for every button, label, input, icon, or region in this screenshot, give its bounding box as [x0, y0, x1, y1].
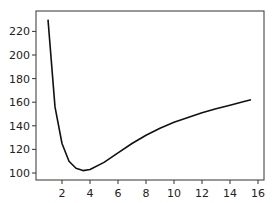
x-tick-label: 8 — [143, 187, 150, 200]
y-tick-label: 180 — [9, 73, 30, 86]
x-tick-label: 6 — [115, 187, 122, 200]
x-axis: 246810121416 — [59, 180, 266, 200]
line-chart: 100120140160180200220 246810121416 — [0, 0, 279, 203]
x-tick-label: 10 — [167, 187, 181, 200]
x-tick-label: 12 — [195, 187, 209, 200]
x-tick-label: 2 — [59, 187, 66, 200]
y-tick-label: 160 — [9, 96, 30, 109]
y-tick-label: 100 — [9, 167, 30, 180]
y-tick-label: 140 — [9, 120, 30, 133]
y-axis: 100120140160180200220 — [9, 25, 36, 180]
y-tick-label: 120 — [9, 143, 30, 156]
y-tick-label: 220 — [9, 25, 30, 38]
x-tick-label: 14 — [223, 187, 237, 200]
x-tick-label: 4 — [87, 187, 94, 200]
y-tick-label: 200 — [9, 49, 30, 62]
plot-area — [36, 11, 264, 180]
x-tick-label: 16 — [251, 187, 265, 200]
